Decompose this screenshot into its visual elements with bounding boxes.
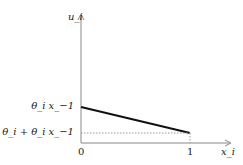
plot-svg [0, 0, 243, 165]
y-label-upper: θ_i x_−1 [31, 100, 74, 111]
y-label-lower: −1+ θ_i + θ_i x_−1 [0, 126, 74, 137]
x-tick-0: 0 [78, 146, 84, 157]
x-axis-label: x_i [221, 146, 235, 157]
y-axis-label: u_i [68, 11, 83, 22]
x-tick-1: 1 [187, 146, 193, 157]
diagram: u_i x_i 0 1 θ_i x_−1 −1+ θ_i + θ_i x_−1 [0, 0, 243, 165]
utility-line [81, 107, 190, 133]
